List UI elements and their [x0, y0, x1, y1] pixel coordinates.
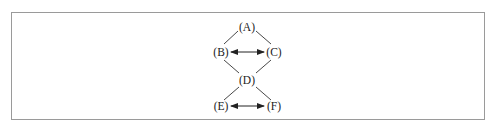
node-e: (E) [214, 100, 229, 113]
edge-d-e [224, 87, 239, 100]
node-d: (D) [239, 74, 255, 87]
edge-d-f [256, 87, 271, 100]
node-a: (A) [239, 21, 255, 34]
edge-b-a [224, 31, 238, 44]
node-f: (F) [267, 100, 281, 113]
edge-b-d [224, 60, 239, 73]
lattice-diagram: (A) (B) (C) (D) (E) (F) [0, 0, 495, 130]
edge-c-d [256, 60, 271, 73]
edge-a-c [256, 31, 271, 44]
node-c: (C) [266, 46, 282, 59]
node-b: (B) [213, 46, 229, 59]
